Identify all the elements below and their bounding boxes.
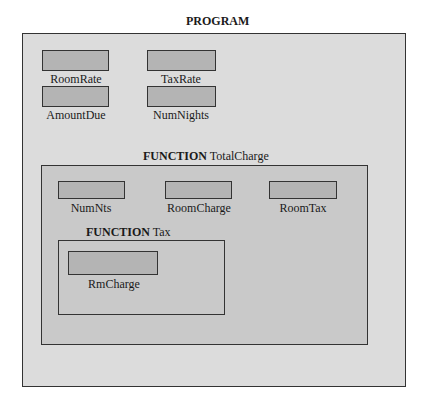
variable-label-taxrate: TaxRate xyxy=(161,72,201,87)
variable-label-numnts: NumNts xyxy=(71,201,112,216)
program-keyword: PROGRAM xyxy=(186,14,249,28)
function-totalcharge-title: FUNCTION TotalCharge xyxy=(143,149,269,164)
variable-box-numnts xyxy=(58,181,125,199)
function-keyword: FUNCTION xyxy=(86,225,150,239)
variable-box-numnights xyxy=(147,86,216,107)
function-name: TotalCharge xyxy=(207,149,269,163)
variable-label-roomrate: RoomRate xyxy=(50,72,101,87)
variable-box-roomcharge xyxy=(165,181,232,199)
variable-box-amountdue xyxy=(42,86,109,107)
variable-box-roomtax xyxy=(269,181,337,199)
variable-box-taxrate xyxy=(147,50,216,71)
function-name: Tax xyxy=(150,225,171,239)
variable-box-roomrate xyxy=(42,50,109,71)
function-keyword: FUNCTION xyxy=(143,149,207,163)
variable-label-roomtax: RoomTax xyxy=(279,201,326,216)
variable-label-rmcharge: RmCharge xyxy=(88,277,140,292)
function-tax-title: FUNCTION Tax xyxy=(86,225,171,240)
program-title: PROGRAM xyxy=(186,14,249,29)
variable-label-numnights: NumNights xyxy=(153,108,209,123)
variable-label-amountdue: AmountDue xyxy=(46,108,105,123)
variable-box-rmcharge xyxy=(68,251,158,275)
variable-label-roomcharge: RoomCharge xyxy=(167,201,231,216)
